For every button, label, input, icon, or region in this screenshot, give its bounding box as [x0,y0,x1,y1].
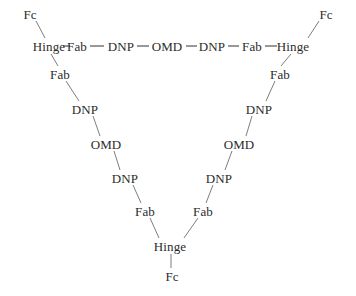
node-fab-top-left: Fab [67,40,87,53]
node-dnp-left-2: DNP [72,103,98,116]
node-hinge-bottom: Hinge [154,240,186,253]
edge-fab-right-1-to-dnp-right-2 [266,81,275,101]
edge-hinge-top-right-to-fc-top-right [308,21,319,38]
node-fab-right-1: Fab [270,68,290,81]
node-fab-left-5: Fab [135,205,155,218]
node-hinge-top-left: Hinge [33,40,65,53]
node-hinge-top-right: Hinge [277,40,309,53]
node-fab-top-right: Fab [242,40,262,53]
node-fab-left-1: Fab [50,68,70,81]
edge-fab-left-1-to-dnp-left-2 [66,81,79,101]
node-fc-bottom: Fc [165,270,178,283]
node-fab-right-5: Fab [193,205,213,218]
node-dnp-right-2: DNP [246,103,272,116]
edge-dnp-left-4-to-fab-left-5 [133,185,141,203]
node-dnp-right-4: DNP [206,172,232,185]
edge-dnp-left-2-to-omd-left-3 [93,116,100,136]
node-dnp-top-left: DNP [108,40,134,53]
node-omd-left-3: OMD [91,138,122,151]
edge-hinge-top-right-to-fab-right-1 [281,54,291,66]
edge-dnp-right-2-to-omd-right-3 [246,116,252,136]
node-fc-top-left: Fc [23,8,36,21]
edge-dnp-right-4-to-fab-right-5 [206,185,213,203]
node-omd-top-center: OMD [152,40,183,53]
edge-hinge-top-left-to-fab-left-1 [51,54,58,66]
edge-fab-right-5-to-hinge-bottom [184,218,198,238]
edge-omd-left-3-to-dnp-left-4 [114,151,120,170]
edge-fc-top-left-to-hinge-top-left [36,21,45,38]
edge-omd-right-3-to-dnp-right-4 [225,151,232,170]
node-fc-top-right: Fc [319,8,332,21]
molecular-construct-diagram: FcHingeFabDNPOMDDNPFabHingeFcFabDNPOMDDN… [0,0,356,296]
node-dnp-left-4: DNP [112,172,138,185]
node-omd-right-3: OMD [224,138,255,151]
edge-fab-left-5-to-hinge-bottom [150,218,159,238]
node-dnp-top-right: DNP [199,40,225,53]
